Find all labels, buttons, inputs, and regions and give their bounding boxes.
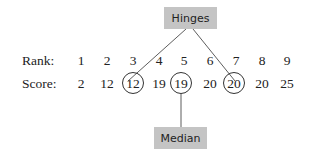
score-value-hinge-upper: 20: [222, 76, 246, 92]
rank-value: 3: [121, 53, 145, 69]
rank-value: 6: [198, 53, 222, 69]
rank-value: 2: [95, 53, 119, 69]
score-value: 25: [275, 76, 299, 92]
score-value-hinge-lower: 12: [121, 76, 145, 92]
rank-label: Rank:: [22, 53, 54, 69]
score-label: Score:: [22, 76, 57, 92]
rank-value: 7: [224, 53, 248, 69]
score-value: 19: [147, 76, 171, 92]
rank-value: 9: [275, 53, 299, 69]
rank-value: 5: [172, 53, 196, 69]
score-value: 12: [95, 76, 119, 92]
score-value: 20: [198, 76, 222, 92]
rank-value: 8: [250, 53, 274, 69]
median-box: Median: [154, 127, 207, 149]
score-value-median: 19: [169, 76, 193, 92]
hinges-box: Hinges: [164, 7, 217, 29]
median-label: Median: [160, 132, 200, 145]
rank-value: 4: [147, 53, 171, 69]
rank-value: 1: [69, 53, 93, 69]
score-value: 20: [250, 76, 274, 92]
hinges-label: Hinges: [172, 12, 210, 25]
score-value: 2: [69, 76, 93, 92]
